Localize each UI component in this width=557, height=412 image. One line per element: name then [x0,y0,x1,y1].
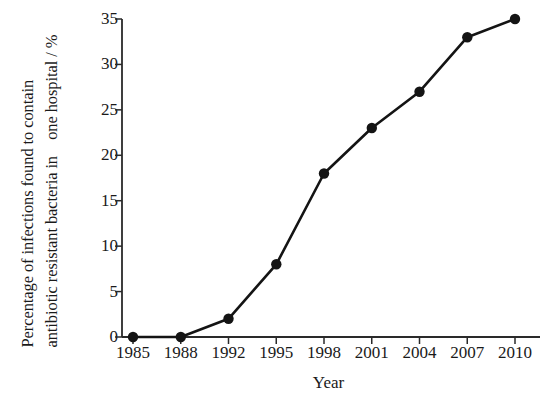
data-point-marker [223,314,233,324]
chart-page: Percentage of infections found to contai… [0,0,557,412]
data-point-marker [367,123,377,133]
data-point-marker [319,168,329,178]
data-point-marker [414,87,424,97]
chart-axes [115,19,540,344]
x-axis-tick-labels: 198519881992199519982001200420072010 [0,344,557,370]
x-axis-tick-label: 2010 [487,344,543,361]
x-axis-title: Year [0,373,557,393]
data-point-marker [176,332,186,342]
data-point-marker [510,14,520,24]
data-point-marker [271,259,281,269]
x-axis-title-text: Year [313,373,344,393]
data-point-marker [128,332,138,342]
data-point-marker [462,32,472,42]
data-point-markers [128,14,520,342]
